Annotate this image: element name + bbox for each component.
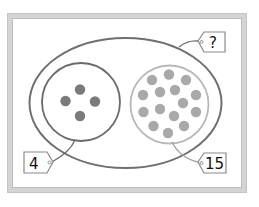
dot bbox=[155, 87, 165, 97]
part-whole-diagram: ? 4 15 bbox=[0, 0, 259, 207]
right-dots bbox=[138, 69, 201, 138]
dot bbox=[60, 96, 70, 106]
dot bbox=[169, 111, 179, 121]
dot bbox=[75, 111, 85, 121]
dot bbox=[138, 90, 148, 100]
dot bbox=[164, 69, 174, 79]
whole-set-ellipse bbox=[30, 38, 222, 168]
dot bbox=[178, 98, 188, 108]
part-set-left-circle bbox=[42, 63, 120, 141]
tag-whole-label: ? bbox=[209, 34, 217, 52]
dot bbox=[191, 107, 201, 117]
left-dots bbox=[60, 84, 100, 121]
dot bbox=[179, 121, 189, 131]
dot bbox=[147, 75, 157, 85]
dot bbox=[138, 107, 148, 117]
tag-left-label: 4 bbox=[29, 155, 39, 173]
dot bbox=[155, 104, 165, 114]
dot bbox=[75, 84, 85, 94]
tag-right-label: 15 bbox=[205, 155, 224, 173]
tag-right: 15 bbox=[198, 153, 226, 173]
dot bbox=[181, 75, 191, 85]
connector-whole bbox=[179, 41, 198, 47]
connector-left bbox=[52, 140, 75, 162]
dot bbox=[170, 85, 180, 95]
tag-left: 4 bbox=[24, 152, 53, 173]
dot bbox=[163, 128, 173, 138]
dot bbox=[90, 96, 100, 106]
dot bbox=[191, 90, 201, 100]
dot bbox=[148, 121, 158, 131]
tag-whole: ? bbox=[198, 32, 225, 52]
